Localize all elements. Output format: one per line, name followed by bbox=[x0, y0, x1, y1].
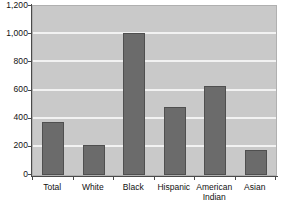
y-tick-label-400: 400 bbox=[0, 113, 28, 122]
y-tick-mark-400 bbox=[28, 118, 32, 119]
bar-total bbox=[42, 122, 64, 175]
x-tick-mark-3 bbox=[154, 177, 155, 180]
x-label-line: American bbox=[196, 182, 232, 192]
gridline-800 bbox=[33, 60, 276, 62]
x-label-line: White bbox=[82, 182, 104, 192]
x-label-line: Total bbox=[43, 182, 61, 192]
gridline-1000 bbox=[33, 32, 276, 34]
y-tick-mark-200 bbox=[28, 146, 32, 147]
x-tick-mark-5 bbox=[235, 177, 236, 180]
gridline-400 bbox=[33, 117, 276, 119]
y-tick-mark-1000 bbox=[28, 33, 32, 34]
gridline-600 bbox=[33, 89, 276, 91]
y-tick-label-1000: 1,000 bbox=[0, 29, 28, 38]
bar-chart: 02004006008001,0001,200 TotalWhiteBlackH… bbox=[0, 0, 285, 208]
y-tick-mark-1200 bbox=[28, 5, 32, 6]
y-tick-label-1200: 1,200 bbox=[0, 1, 28, 10]
x-label-line: Hispanic bbox=[157, 182, 190, 192]
x-tick-mark-0 bbox=[32, 177, 33, 180]
x-axis-line bbox=[31, 176, 278, 177]
y-tick-mark-600 bbox=[28, 90, 32, 91]
plot-area bbox=[32, 5, 277, 176]
bar-american-indian bbox=[204, 86, 226, 175]
x-tick-label-white: White bbox=[73, 182, 114, 192]
y-tick-mark-0 bbox=[28, 174, 32, 175]
x-tick-label-asian: Asian bbox=[235, 182, 276, 192]
x-tick-mark-1 bbox=[73, 177, 74, 180]
x-tick-label-total: Total bbox=[32, 182, 73, 192]
x-tick-label-black: Black bbox=[113, 182, 154, 192]
bar-asian bbox=[245, 150, 267, 175]
y-tick-label-600: 600 bbox=[0, 85, 28, 94]
x-label-line: Asian bbox=[244, 182, 265, 192]
y-axis-tick-labels: 02004006008001,0001,200 bbox=[0, 0, 28, 208]
y-tick-label-0: 0 bbox=[0, 170, 28, 179]
y-tick-mark-800 bbox=[28, 61, 32, 62]
x-label-line: Indian bbox=[194, 192, 235, 202]
x-tick-mark-6 bbox=[275, 177, 276, 180]
bar-hispanic bbox=[164, 107, 186, 175]
x-tick-mark-2 bbox=[113, 177, 114, 180]
x-tick-mark-4 bbox=[194, 177, 195, 180]
x-tick-label-hispanic: Hispanic bbox=[154, 182, 195, 192]
y-tick-label-800: 800 bbox=[0, 57, 28, 66]
gridline-200 bbox=[33, 145, 276, 147]
bar-white bbox=[83, 145, 105, 175]
y-axis-line bbox=[31, 4, 32, 177]
x-tick-label-american-indian: AmericanIndian bbox=[194, 182, 235, 202]
bar-black bbox=[123, 33, 145, 175]
x-label-line: Black bbox=[123, 182, 144, 192]
y-tick-label-200: 200 bbox=[0, 141, 28, 150]
